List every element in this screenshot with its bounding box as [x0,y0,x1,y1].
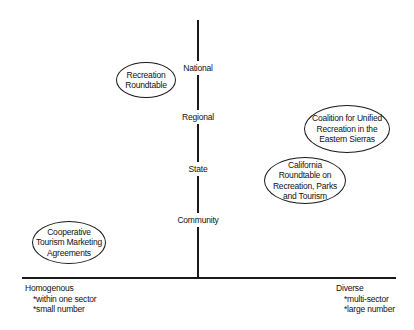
axis-label-bullet: *large number [336,304,395,315]
node-label: California Roundtable on Recreation, Par… [273,160,337,202]
node-cooperative-tourism-marketing: Cooperative Tourism Marketing Agreements [32,221,106,264]
horizontal-axis-diversity [22,277,396,279]
level-regional: Regional [182,110,214,124]
axis-label-title: Diverse [336,283,395,294]
axis-label-diverse: Diverse *multi-sector *large number [336,283,395,315]
node-california-roundtable: California Roundtable on Recreation, Par… [264,157,346,204]
node-label: Cooperative Tourism Marketing Agreements [36,227,102,259]
axis-label-bullet: *multi-sector [336,294,395,305]
axis-label-homogenous: Homogenous *within one sector *small num… [25,283,97,315]
level-state: State [189,162,208,176]
node-label: Coalition for Unified Recreation in the … [312,113,382,145]
axis-label-title: Homogenous [25,283,97,294]
node-label: Recreation Roundtable [125,70,166,91]
axis-label-bullet: *within one sector [25,294,97,305]
level-national: National [183,61,213,75]
node-coalition-unified-recreation: Coalition for Unified Recreation in the … [304,105,390,153]
axis-label-bullet: *small number [25,304,97,315]
vertical-axis-scale [197,20,199,279]
node-recreation-roundtable: Recreation Roundtable [116,62,176,98]
level-community: Community [177,213,218,227]
